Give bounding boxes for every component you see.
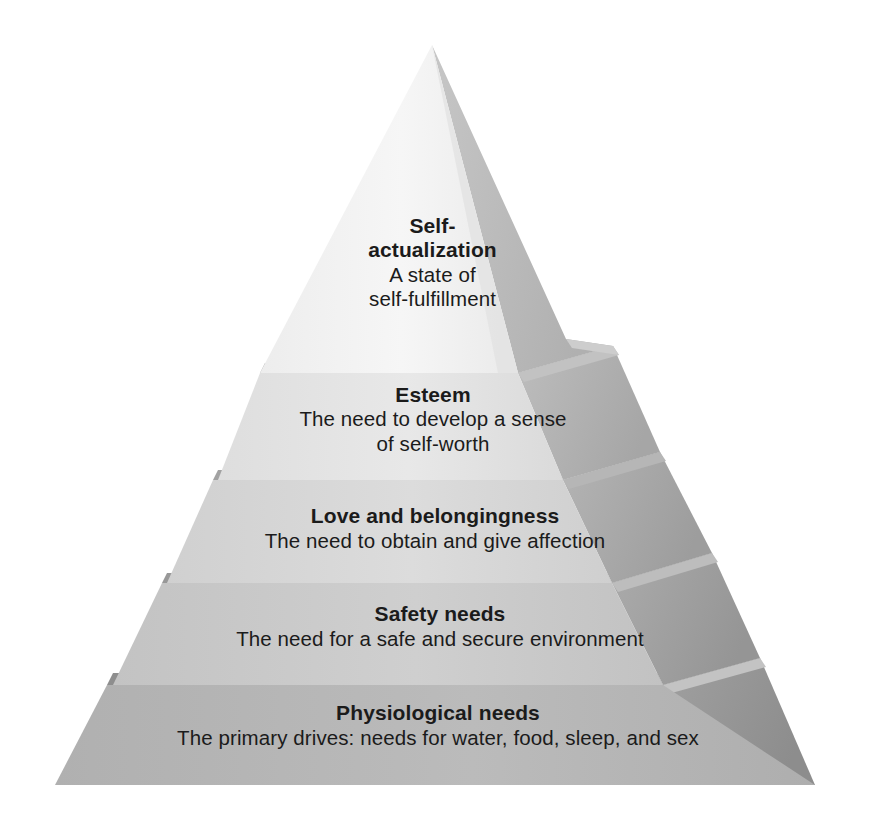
tier-safety-front-face [113,583,663,685]
tier-love-front-face [167,480,612,583]
maslow-pyramid-graphic [0,0,890,830]
tier-esteem-front-face [218,373,563,480]
pyramid-tier-self-actualization [260,45,619,373]
pyramid-diagram-canvas: Self- actualization A state of self-fulf… [0,0,890,830]
